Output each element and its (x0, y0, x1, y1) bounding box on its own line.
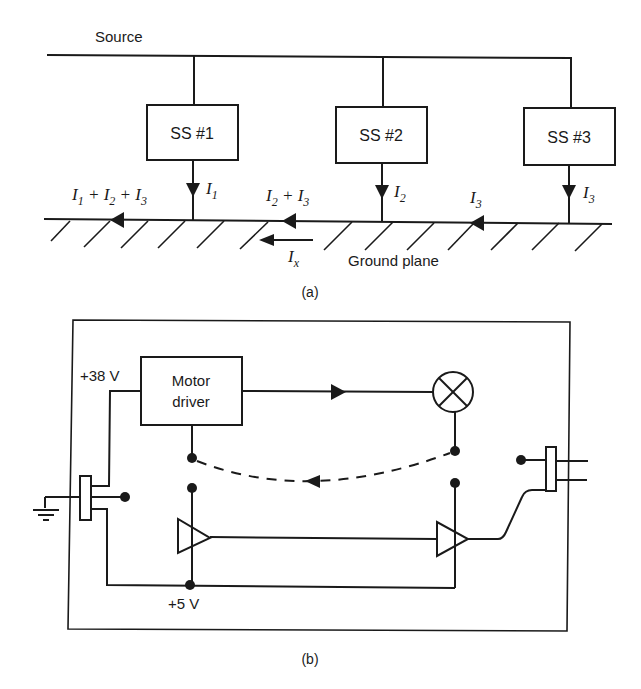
label-i3: I3 (582, 183, 595, 206)
voltage-5v-label: +5 V (168, 595, 199, 612)
source-bus (47, 55, 571, 108)
subsystem-label: SS #3 (547, 129, 591, 146)
amplifier-2-icon (437, 522, 468, 556)
diagram-b: Motor driver +38 V (33, 320, 588, 667)
subsystem-2: SS #2 (336, 107, 427, 163)
label-total-current: I1 + I2 + I3 (71, 185, 147, 208)
label-i1: I1 (205, 179, 218, 202)
motor-driver-label-line1: Motor (172, 372, 210, 389)
figure: Source SS #1 SS #2 SS #3 (0, 0, 641, 689)
arrow-right-icon (331, 384, 346, 400)
ground-icon (33, 510, 59, 520)
caption-a: (a) (301, 284, 318, 300)
subsystem-1: SS #1 (147, 105, 238, 160)
subsystem-label: SS #1 (170, 125, 214, 142)
arrow-left-icon (305, 475, 320, 488)
figure-svg: Source SS #1 SS #2 SS #3 (0, 0, 641, 689)
label-i2: I2 (393, 182, 406, 205)
amp-output-wire (468, 490, 548, 539)
arrow-left-icon (259, 234, 274, 246)
arrow-down-icon (375, 185, 389, 199)
source-label: Source (95, 28, 143, 45)
ground-plane-label: Ground plane (348, 252, 439, 269)
connector-pin-dot (120, 492, 130, 502)
diagram-a: Source SS #1 SS #2 SS #3 (44, 28, 615, 300)
motor-driver-label-line2: driver (172, 393, 210, 410)
contact-dot (450, 446, 460, 456)
contact-dot (187, 453, 197, 463)
label-segment-i3: I3 (469, 188, 482, 211)
connector-body (80, 476, 91, 520)
motor-driver-box (141, 357, 242, 425)
arrow-down-icon (562, 185, 576, 199)
arrow-left-icon (470, 215, 484, 231)
arrow-down-icon (186, 183, 200, 197)
left-connector (45, 476, 130, 520)
voltage-38v-label: +38 V (80, 367, 120, 384)
label-partial-current: I2 + I3 (265, 186, 309, 209)
ground-hatching (51, 221, 602, 251)
connector-body (546, 447, 556, 491)
supply-5v-rail (91, 509, 455, 588)
amplifier-1-icon (178, 519, 210, 553)
caption-b: (b) (301, 651, 318, 667)
right-connector (516, 447, 588, 491)
node-5v-dot (185, 580, 195, 590)
arrow-left-icon (282, 213, 296, 229)
lamp-icon (433, 372, 473, 412)
label-ix: Ix (287, 247, 300, 270)
amp-link-wire (210, 537, 437, 539)
return-path-dashed (197, 453, 450, 481)
subsystem-label: SS #2 (359, 127, 403, 144)
subsystem-3: SS #3 (524, 108, 615, 165)
ground-plane-line (44, 219, 612, 224)
supply-38v-wire (91, 391, 141, 486)
arrow-left-icon (110, 212, 124, 228)
